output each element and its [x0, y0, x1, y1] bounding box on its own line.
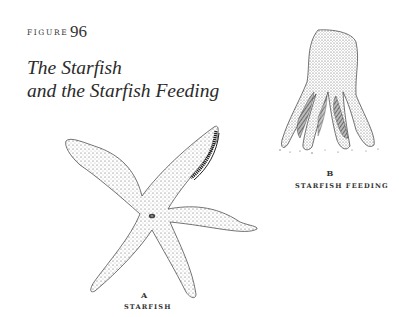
starfish-illustration: [66, 126, 257, 297]
starfish-feeding-illustration: [279, 30, 378, 154]
panel-b-caption: STARFISH FEEDING: [295, 182, 389, 190]
illustration-canvas: [0, 0, 399, 317]
panel-a-letter: A: [134, 290, 154, 300]
panel-b-letter: B: [320, 168, 340, 178]
panel-a-caption: STARFISH: [124, 303, 171, 311]
